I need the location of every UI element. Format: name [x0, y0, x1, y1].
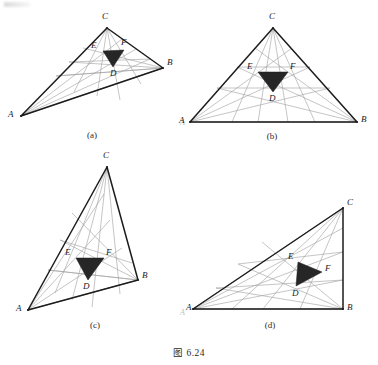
figure-caption: 图 6.24 [0, 345, 378, 359]
inner-label-d-E: E [288, 252, 294, 261]
vertex-label-d-B: B [347, 303, 353, 312]
panel-d: A B C D E F (d) [0, 0, 378, 365]
inner-label-d-F: F [325, 264, 331, 273]
inner-label-d-D: D [292, 289, 299, 298]
figure-sheet: A B C D E F (a) A [0, 0, 378, 365]
triangle-outline-d [193, 208, 343, 309]
panel-caption-d: (d) [260, 320, 280, 330]
vertex-label-d-A: A [186, 303, 192, 312]
vertex-label-d-C: C [347, 198, 353, 207]
